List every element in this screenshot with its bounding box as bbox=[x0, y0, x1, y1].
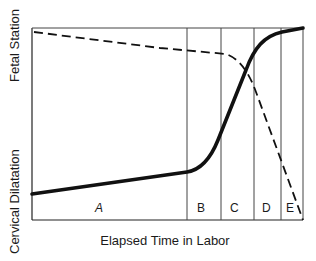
y-axis-label-fetal-station: Fetal Station bbox=[7, 9, 22, 82]
plot-area bbox=[0, 0, 316, 261]
phase-label-d: D bbox=[262, 201, 271, 215]
cervical-dilatation-curve bbox=[32, 28, 303, 194]
phase-label-e: E bbox=[286, 201, 294, 215]
phase-label-b: B bbox=[197, 201, 205, 215]
x-axis-label: Elapsed Time in Labor bbox=[0, 233, 316, 248]
fetal-station-curve bbox=[34, 32, 303, 220]
labor-curve-diagram: Fetal Station Cervical Dilatation A B C … bbox=[0, 0, 316, 261]
phase-label-c: C bbox=[230, 201, 239, 215]
phase-label-a: A bbox=[95, 201, 103, 215]
